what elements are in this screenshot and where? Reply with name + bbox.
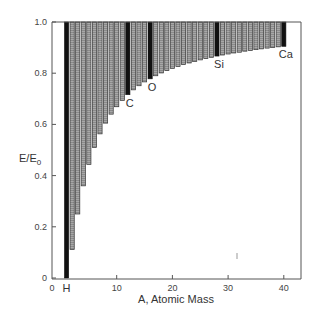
- y-tick-label: 0.2: [34, 222, 47, 232]
- element-label-c: C: [126, 97, 134, 109]
- chart-svg: 00.20.40.60.81.0 010203040 HCOSiCa A, At…: [0, 0, 318, 319]
- bar-a2: [70, 22, 74, 250]
- bar-a36: [259, 22, 263, 49]
- bar-h: [64, 22, 68, 278]
- bar-a25: [198, 22, 202, 60]
- bar-a30: [226, 22, 230, 54]
- y-tick-label: 0.8: [34, 68, 47, 78]
- x-tick-label: 20: [167, 283, 177, 293]
- y-tick-label: 0.6: [34, 119, 47, 129]
- element-label-o: O: [148, 81, 157, 93]
- bar-a11: [120, 22, 124, 100]
- y-axis-title-main: E/E: [19, 152, 37, 164]
- bar-a9: [109, 22, 113, 114]
- bar-a22: [181, 22, 185, 65]
- x-tick-label: 0: [49, 283, 54, 293]
- x-tick-label: 30: [223, 283, 233, 293]
- bar-si: [215, 22, 219, 56]
- y-axis-title-subscript: 0: [37, 158, 42, 167]
- element-label-si: Si: [214, 58, 224, 70]
- bar-a18: [159, 22, 163, 73]
- y-tick-label: 1.0: [34, 17, 47, 27]
- bar-a35: [254, 22, 258, 50]
- bar-a7: [98, 22, 102, 134]
- bar-a19: [165, 22, 169, 71]
- bar-a17: [154, 22, 158, 76]
- bar-a6: [92, 22, 96, 147]
- y-tick-label: 0.4: [34, 171, 47, 181]
- bar-a26: [204, 22, 208, 59]
- y-axis-title: E/E0: [19, 152, 42, 167]
- bar-a31: [232, 22, 236, 53]
- y-axis-ticks: 00.20.40.60.81.0: [34, 17, 56, 283]
- bar-ca: [282, 22, 286, 46]
- element-label-h: H: [63, 282, 71, 294]
- bar-a33: [243, 22, 247, 51]
- x-tick-label: 10: [112, 283, 122, 293]
- bar-series: [64, 22, 285, 278]
- bar-a21: [176, 22, 180, 67]
- element-label-ca: Ca: [279, 48, 294, 60]
- bar-a32: [237, 22, 241, 52]
- x-tick-label: 40: [279, 283, 289, 293]
- bar-a5: [87, 22, 91, 164]
- bar-a3: [76, 22, 80, 214]
- bar-a20: [170, 22, 174, 68]
- bar-a24: [193, 22, 197, 61]
- bar-a29: [220, 22, 224, 55]
- y-tick-label: 0: [42, 273, 47, 283]
- bar-a39: [276, 22, 280, 47]
- bar-a4: [81, 22, 85, 186]
- bar-c: [126, 22, 130, 95]
- element-labels: HCOSiCa: [63, 48, 294, 294]
- bar-a38: [271, 22, 275, 48]
- bar-a10: [115, 22, 119, 107]
- x-axis-ticks: 010203040: [49, 275, 288, 293]
- bar-a37: [265, 22, 269, 48]
- bar-a14: [137, 22, 141, 86]
- bar-a13: [131, 22, 135, 90]
- bar-a15: [142, 22, 146, 82]
- bar-a27: [209, 22, 213, 57]
- bar-a34: [248, 22, 252, 50]
- bar-a23: [187, 22, 191, 63]
- bar-a8: [103, 22, 107, 123]
- bar-o: [148, 22, 152, 79]
- x-axis-title: A, Atomic Mass: [138, 293, 214, 305]
